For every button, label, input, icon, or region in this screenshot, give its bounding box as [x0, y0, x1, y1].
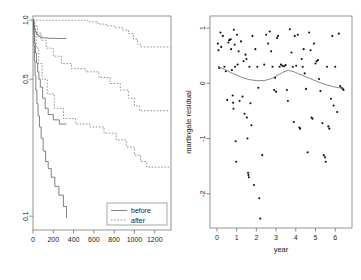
x-tick-label: 1: [235, 234, 239, 241]
scatter-point: [231, 69, 233, 71]
scatter-point: [248, 66, 250, 68]
scatter-point: [258, 197, 260, 199]
scatter-point: [249, 102, 251, 104]
scatter-point: [327, 125, 329, 127]
survival-plot-panel: 0200400600800100012001.00.50.1beforeafte…: [0, 0, 181, 280]
x-tick-label: 4: [294, 234, 298, 241]
scatter-point: [294, 35, 296, 37]
scatter-point: [244, 54, 246, 56]
scatter-point: [277, 35, 279, 37]
scatter-point: [253, 184, 255, 186]
scatter-point: [321, 122, 323, 124]
scatter-point: [236, 34, 238, 36]
scatter-point: [230, 48, 232, 50]
scatter-point: [324, 156, 326, 158]
y-tick-label: 0.1: [22, 211, 29, 221]
scatter-point: [241, 96, 243, 98]
scatter-point: [233, 29, 235, 31]
figure-root: 0200400600800100012001.00.50.1beforeafte…: [0, 0, 361, 280]
scatter-point: [263, 64, 265, 66]
scatter-point: [338, 33, 340, 35]
survival-plot-svg: 0200400600800100012001.00.50.1beforeafte…: [0, 0, 181, 280]
scatter-point: [336, 111, 338, 113]
x-tick-label: 800: [108, 236, 120, 243]
scatter-point: [331, 35, 333, 37]
scatter-point: [243, 113, 245, 115]
scatter-point: [227, 41, 229, 43]
x-tick-label: 200: [47, 236, 59, 243]
scatter-point: [234, 66, 236, 68]
scatter-point: [230, 38, 232, 40]
scatter-point: [246, 117, 248, 119]
scatter-point: [245, 58, 247, 60]
scatter-point: [226, 99, 228, 101]
residual-plot-box: [210, 16, 352, 228]
y-tick-label: -1: [199, 135, 206, 141]
scatter-point: [256, 66, 258, 68]
scatter-point: [223, 66, 225, 68]
x-tick-label: 5: [314, 234, 318, 241]
scatter-point: [328, 128, 330, 130]
scatter-point: [217, 49, 219, 51]
scatter-point: [247, 172, 249, 174]
x-tick-label: 1000: [127, 236, 143, 243]
scatter-point: [305, 88, 307, 90]
scatter-point: [265, 34, 267, 36]
scatter-point: [319, 90, 321, 92]
x-tick-label: 400: [68, 236, 80, 243]
scatter-point: [275, 91, 277, 93]
scatter-point: [250, 124, 252, 126]
scatter-point: [271, 66, 273, 68]
survival-curve-before-group-1: [33, 20, 66, 38]
survival-plot-box: [33, 16, 171, 230]
scatter-point: [290, 51, 292, 53]
survival-curve-after-group-2: [33, 20, 170, 111]
scatter-point: [261, 154, 263, 156]
scatter-point: [302, 66, 304, 68]
scatter-point: [342, 89, 344, 91]
scatter-point: [297, 34, 299, 36]
legend-label-after: after: [131, 217, 146, 224]
y-axis-label: martingale residual: [184, 90, 193, 154]
scatter-point: [289, 28, 291, 30]
scatter-point: [284, 64, 286, 66]
scatter-point: [247, 174, 249, 176]
y-tick-label: 1.0: [22, 15, 29, 25]
scatter-point: [269, 30, 271, 32]
scatter-point: [286, 89, 288, 91]
scatter-point: [325, 161, 327, 163]
legend-label-before: before: [131, 207, 151, 214]
scatter-point: [304, 72, 306, 74]
scatter-point: [308, 32, 310, 34]
x-tick-label: 600: [88, 236, 100, 243]
scatter-point: [232, 102, 234, 104]
scatter-point: [323, 154, 325, 156]
scatter-point: [254, 48, 256, 50]
scatter-point: [248, 176, 250, 178]
scatter-point: [339, 85, 341, 87]
scatter-point: [238, 50, 240, 52]
scatter-point: [279, 66, 281, 68]
scatter-point: [334, 66, 336, 68]
y-tick-label: 0.5: [22, 74, 29, 84]
scatter-point: [303, 48, 305, 50]
scatter-point: [234, 44, 236, 46]
scatter-point: [293, 121, 295, 123]
scatter-point: [239, 100, 241, 102]
residual-plot-svg: 012345610-1-2yearmartingale residual: [180, 0, 361, 280]
x-tick-label: 2: [254, 234, 258, 241]
residual-plot-panel: 012345610-1-2yearmartingale residual: [180, 0, 361, 280]
survival-curve-after-group-3: [33, 20, 170, 167]
scatter-point: [232, 94, 234, 96]
survival-curve-after-group-1: [33, 20, 170, 47]
scatter-point: [307, 151, 309, 153]
x-tick-label: 6: [333, 234, 337, 241]
x-tick-label: 0: [31, 236, 35, 243]
x-axis-label: year: [274, 245, 289, 254]
scatter-point: [301, 58, 303, 60]
scatter-point: [235, 161, 237, 163]
scatter-point: [317, 59, 319, 61]
scatter-point: [326, 66, 328, 68]
survival-curve-before-group-3: [33, 20, 66, 218]
scatter-point: [318, 78, 320, 80]
